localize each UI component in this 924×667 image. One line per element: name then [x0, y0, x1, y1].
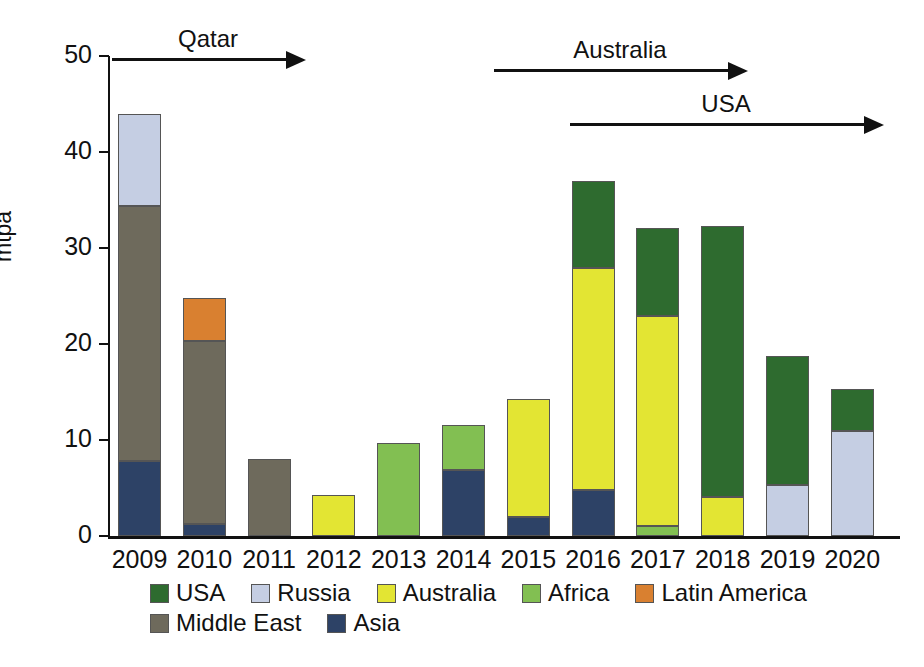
y-axis-tick [99, 151, 109, 153]
x-axis-tick-label: 2013 [364, 545, 434, 573]
bar-stack-2016[interactable] [572, 0, 615, 536]
bar-segment-usa[interactable] [701, 226, 744, 497]
bar-segment-africa[interactable] [442, 425, 485, 470]
y-axis-tick-label: 40 [36, 138, 92, 163]
x-axis-tick-label: 2017 [623, 545, 693, 573]
legend-swatch-icon [150, 614, 169, 633]
legend-item-africa[interactable]: Africa [522, 581, 609, 605]
y-axis-tick [99, 55, 109, 57]
bar-stack-2012[interactable] [312, 0, 355, 536]
y-axis-tick-label: 20 [36, 330, 92, 355]
bar-stack-2017[interactable] [636, 0, 679, 536]
x-axis-tick-label: 2015 [493, 545, 563, 573]
bar-segment-usa[interactable] [766, 356, 809, 485]
bar-stack-2014[interactable] [442, 0, 485, 536]
legend-item-australia[interactable]: Australia [377, 581, 496, 605]
legend-item-latin-america[interactable]: Latin America [635, 581, 806, 605]
legend-swatch-icon [522, 584, 541, 603]
legend-item-russia[interactable]: Russia [251, 581, 350, 605]
x-axis-tick-label: 2009 [105, 545, 175, 573]
bar-segment-usa[interactable] [572, 181, 615, 268]
x-axis-line [108, 536, 900, 539]
chart-legend: USARussiaAustraliaAfricaLatin AmericaMid… [150, 578, 890, 638]
bar-stack-2009[interactable] [118, 0, 161, 536]
legend-label: Latin America [661, 581, 806, 605]
bar-segment-russia[interactable] [831, 431, 874, 536]
x-axis-tick-label: 2020 [817, 545, 887, 573]
legend-label: Africa [548, 581, 609, 605]
legend-swatch-icon [251, 584, 270, 603]
legend-row: Middle EastAsia [150, 608, 890, 638]
bar-segment-africa[interactable] [636, 526, 679, 536]
x-axis-tick-label: 2010 [169, 545, 239, 573]
y-axis-tick-label: 30 [36, 234, 92, 259]
bar-stack-2019[interactable] [766, 0, 809, 536]
bar-segment-asia[interactable] [572, 490, 615, 536]
x-axis-tick-label: 2014 [429, 545, 499, 573]
legend-item-usa[interactable]: USA [150, 581, 225, 605]
bar-stack-2020[interactable] [831, 0, 874, 536]
bar-segment-asia[interactable] [507, 517, 550, 536]
x-axis-tick-label: 2012 [299, 545, 369, 573]
legend-item-asia[interactable]: Asia [327, 611, 400, 635]
y-axis-tick [99, 247, 109, 249]
bar-segment-latin-america[interactable] [183, 298, 226, 341]
legend-swatch-icon [150, 584, 169, 603]
bar-segment-australia[interactable] [572, 268, 615, 490]
bar-segment-russia[interactable] [766, 485, 809, 536]
bar-stack-2010[interactable] [183, 0, 226, 536]
bar-segment-asia[interactable] [183, 524, 226, 536]
bar-segment-australia[interactable] [701, 497, 744, 536]
bar-segment-australia[interactable] [636, 316, 679, 526]
legend-row: USARussiaAustraliaAfricaLatin America [150, 578, 890, 608]
bar-stack-2013[interactable] [377, 0, 420, 536]
bar-segment-africa[interactable] [377, 443, 420, 536]
legend-label: Australia [403, 581, 496, 605]
x-axis-tick-label: 2018 [688, 545, 758, 573]
x-axis-tick-label: 2011 [234, 545, 304, 573]
y-axis-tick [99, 439, 109, 441]
bar-segment-middle-east[interactable] [248, 459, 291, 536]
legend-item-middle-east[interactable]: Middle East [150, 611, 301, 635]
legend-swatch-icon [327, 614, 346, 633]
bar-stack-2018[interactable] [701, 0, 744, 536]
y-axis-label: mtpa [0, 211, 17, 262]
legend-label: Middle East [176, 611, 301, 635]
bar-segment-australia[interactable] [312, 495, 355, 536]
bar-stack-2015[interactable] [507, 0, 550, 536]
bar-segment-usa[interactable] [636, 228, 679, 316]
legend-label: Russia [277, 581, 350, 605]
y-axis-tick [99, 343, 109, 345]
legend-swatch-icon [377, 584, 396, 603]
bar-segment-middle-east[interactable] [118, 206, 161, 461]
y-axis-tick-label: 50 [36, 42, 92, 67]
bar-segment-russia[interactable] [118, 114, 161, 206]
bar-segment-australia[interactable] [507, 399, 550, 517]
x-axis-tick-label: 2019 [753, 545, 823, 573]
y-axis-tick-label: 10 [36, 426, 92, 451]
x-axis-tick-label: 2016 [558, 545, 628, 573]
bar-segment-asia[interactable] [442, 470, 485, 536]
legend-label: USA [176, 581, 225, 605]
legend-label: Asia [353, 611, 400, 635]
bar-stack-2011[interactable] [248, 0, 291, 536]
bar-segment-asia[interactable] [118, 461, 161, 536]
y-axis-line [108, 56, 110, 538]
bar-segment-middle-east[interactable] [183, 341, 226, 523]
legend-swatch-icon [635, 584, 654, 603]
y-axis-tick-label: 0 [36, 522, 92, 547]
stacked-bar-chart: QatarAustraliaUSA 01020304050 mtpa 20092… [0, 0, 924, 667]
bar-segment-usa[interactable] [831, 389, 874, 431]
